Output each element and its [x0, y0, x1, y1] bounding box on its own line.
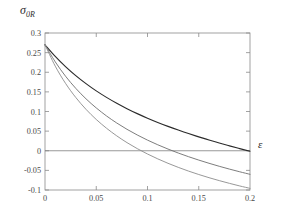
svg-text:-0.05: -0.05	[24, 166, 41, 175]
data-curves	[45, 45, 250, 189]
x-tick-labels: 00.050.10.150.2	[43, 194, 255, 203]
svg-text:0.2: 0.2	[31, 68, 41, 77]
svg-text:-0.1: -0.1	[28, 186, 41, 195]
svg-text:0.1: 0.1	[142, 194, 152, 203]
lower-curve	[45, 45, 250, 189]
svg-text:0.2: 0.2	[245, 194, 255, 203]
svg-text:0.15: 0.15	[27, 88, 41, 97]
svg-text:0: 0	[43, 194, 47, 203]
svg-text:0.05: 0.05	[27, 127, 41, 136]
svg-text:0: 0	[37, 147, 41, 156]
svg-text:0.15: 0.15	[192, 194, 206, 203]
svg-text:0.25: 0.25	[27, 49, 41, 58]
svg-text:0.05: 0.05	[89, 194, 103, 203]
svg-text:0.3: 0.3	[31, 29, 41, 38]
y-tick-labels: -0.1-0.0500.050.10.150.20.250.3	[24, 29, 41, 195]
middle-curve	[45, 45, 250, 175]
svg-text:0.1: 0.1	[31, 108, 41, 117]
chart-figure: σ0R ε 00.050.10.150.2 -0.1-0.0500.050.10…	[0, 0, 286, 214]
plot-canvas: 00.050.10.150.2 -0.1-0.0500.050.10.150.2…	[0, 0, 286, 214]
x-axis-ticks	[96, 33, 199, 190]
